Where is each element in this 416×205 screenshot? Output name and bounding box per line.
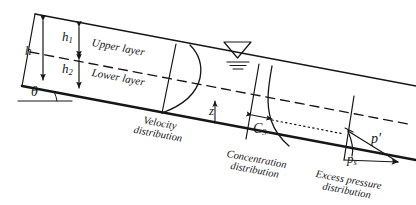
theta-angle-arc xyxy=(55,93,58,102)
dotted-tie-line xyxy=(272,120,344,134)
label-h2: h2 xyxy=(62,62,73,77)
velocity-section-line xyxy=(162,44,176,113)
label-p-prime: p′ xyxy=(371,131,381,146)
figure-canvas: h h1 h2 θ Upper layer Lower layer z C3 p… xyxy=(0,0,416,205)
label-theta: θ xyxy=(31,84,38,99)
label-z: z xyxy=(209,104,214,118)
channel-bed-line xyxy=(22,86,416,160)
concentration-c3-arrow xyxy=(252,115,272,119)
label-h: h xyxy=(25,44,32,58)
water-surface-symbol xyxy=(224,42,251,69)
label-p-s: ps xyxy=(347,152,357,167)
label-h1: h1 xyxy=(62,30,73,45)
velocity-profile-curve xyxy=(162,45,201,113)
label-c3: C3 xyxy=(253,121,267,137)
